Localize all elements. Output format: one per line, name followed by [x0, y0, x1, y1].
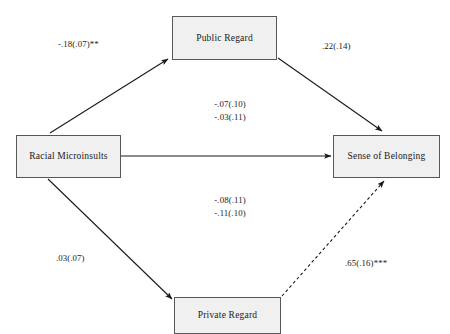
- coefficient-rm-to-public-regard: -.18(.07)**: [58, 39, 99, 51]
- coefficient-group-direct-lower: -.08(.11) -.11(.10): [184, 194, 276, 220]
- coefficient-public-regard-to-belonging: .22(.14): [322, 41, 351, 53]
- coefficient-direct-lower-2: -.11(.10): [184, 207, 276, 220]
- path-line-rm-to-public-regard: [50, 59, 168, 133]
- coefficient-private-regard-to-belonging: .65(.16)***: [345, 258, 387, 270]
- coefficient-group-direct-upper: -.07(.10) -.03(.11): [184, 98, 276, 124]
- path-line-private-regard-to-belonging: [282, 181, 384, 296]
- node-label-private-regard: Private Regard: [196, 310, 260, 320]
- node-sense-of-belonging[interactable]: Sense of Belonging: [333, 135, 440, 178]
- coefficient-direct-upper-2: -.03(.11): [184, 111, 276, 124]
- path-line-public-regard-to-belonging: [278, 58, 382, 131]
- node-private-regard[interactable]: Private Regard: [174, 297, 281, 334]
- path-diagram: Racial Microinsults Public Regard Sense …: [0, 0, 450, 334]
- node-label-public-regard: Public Regard: [194, 33, 255, 43]
- path-line-rm-to-private-regard: [48, 179, 172, 299]
- node-label-racial-microinsults: Racial Microinsults: [27, 151, 109, 161]
- node-public-regard[interactable]: Public Regard: [172, 16, 277, 60]
- coefficient-direct-upper-1: -.07(.10): [184, 98, 276, 111]
- coefficient-rm-to-private-regard: .03(.07): [56, 253, 85, 265]
- node-label-sense-of-belonging: Sense of Belonging: [345, 151, 427, 161]
- node-racial-microinsults[interactable]: Racial Microinsults: [16, 135, 121, 178]
- coefficient-direct-lower-1: -.08(.11): [184, 194, 276, 207]
